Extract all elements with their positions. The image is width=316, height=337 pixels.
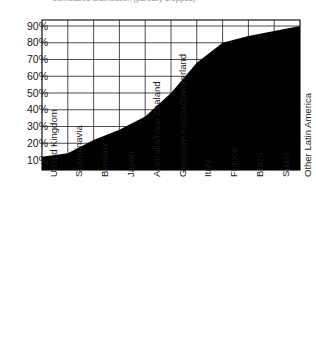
y-tick-60: 60% bbox=[2, 71, 48, 82]
y-tick-70: 70% bbox=[2, 54, 48, 65]
x-tick-other-latin-america: Other Latin America bbox=[303, 93, 313, 177]
y-tick-20: 20% bbox=[2, 138, 48, 149]
y-tick-50: 50% bbox=[2, 88, 48, 99]
x-tick-japan: Japan bbox=[126, 151, 136, 177]
x-tick-australia-new-zealand: Australia/New Zealand bbox=[152, 81, 162, 177]
x-tick-germany-austria-switzerland: Germany/Austria/Switzerland bbox=[178, 54, 188, 177]
x-tick-spain: Spain bbox=[281, 153, 291, 177]
y-tick-40: 40% bbox=[2, 104, 48, 115]
y-tick-30: 30% bbox=[2, 121, 48, 132]
x-tick-brazil: Brazil bbox=[255, 153, 265, 177]
y-tick-10: 10% bbox=[2, 155, 48, 166]
x-tick-benelux: Benelux bbox=[100, 143, 110, 177]
y-tick-90: 90% bbox=[2, 21, 48, 32]
x-tick-united-kingdom: United Kingdom bbox=[49, 109, 59, 177]
x-tick-italy: Italy bbox=[203, 160, 213, 177]
x-tick-scandinavia: Scandinavia bbox=[74, 125, 84, 177]
y-tick-80: 80% bbox=[2, 37, 48, 48]
x-tick-france: France bbox=[229, 147, 239, 177]
